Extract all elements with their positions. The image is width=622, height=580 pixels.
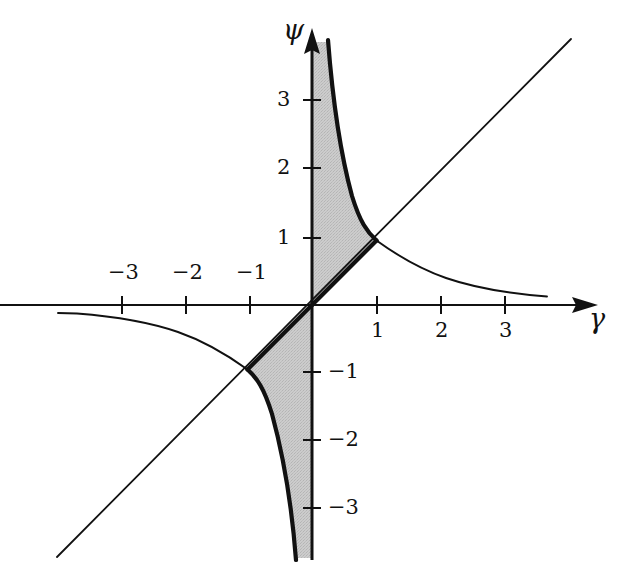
gamma-tick-label-2: 2: [435, 320, 448, 341]
psi-tick-label-3: 3: [277, 89, 290, 110]
upper-shaded-region: [312, 42, 377, 305]
plot-canvas: [0, 0, 622, 580]
gamma-tick-label--2: −2: [172, 262, 203, 283]
psi-tick-label-2: 2: [277, 157, 290, 178]
psi-tick-label--1: −1: [328, 361, 359, 382]
lower-shaded-region: [248, 305, 313, 558]
psi-tick-label-1: 1: [277, 227, 290, 248]
gamma-axis-label: γ: [589, 305, 605, 332]
hyperbola-right-branch: [377, 241, 548, 297]
gamma-tick-label-1: 1: [371, 320, 384, 341]
gamma-tick-label-3: 3: [499, 320, 512, 341]
figure-container: −3 −2 −1 1 2 3 3 2 1 −1 −2 −3 ψ γ: [0, 0, 622, 580]
gamma-tick-label--1: −1: [236, 262, 267, 283]
psi-tick-label--2: −2: [328, 429, 359, 450]
gamma-tick-label--3: −3: [108, 262, 139, 283]
gamma-axis-group: [0, 296, 598, 314]
psi-axis-label: ψ: [283, 16, 304, 43]
hyperbola-left-branch: [58, 313, 248, 370]
psi-tick-label--3: −3: [328, 497, 359, 518]
